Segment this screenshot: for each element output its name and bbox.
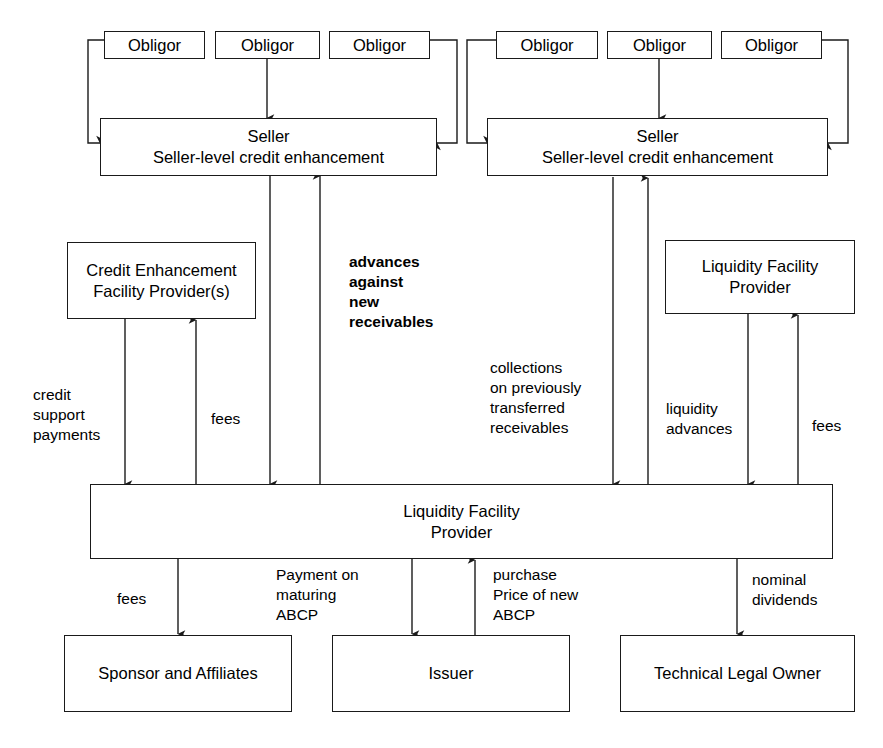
node-label: Obligor bbox=[241, 35, 294, 56]
edge-label-fees-sponsor: fees bbox=[117, 589, 146, 609]
edge-label-line2: against bbox=[349, 272, 433, 292]
node-label: Obligor bbox=[745, 35, 798, 56]
edge-label-line2: maturing bbox=[276, 585, 359, 605]
edge-label-line2: dividends bbox=[752, 590, 818, 610]
node-technical-legal-owner[interactable]: Technical Legal Owner bbox=[620, 635, 855, 712]
node-conduit-liquidity-facility-provider[interactable]: Liquidity Facility Provider bbox=[90, 484, 833, 559]
edge-label-payment-on-maturing-abcp: Payment on maturing ABCP bbox=[276, 565, 359, 625]
edge-label-advances-against-new-receivables: advances against new receivables bbox=[349, 252, 433, 333]
node-label: Technical Legal Owner bbox=[654, 663, 821, 684]
edge-label-line3: ABCP bbox=[276, 605, 359, 625]
edge-label-line4: receivables bbox=[490, 418, 581, 438]
node-label-line2: Provider bbox=[729, 277, 790, 298]
node-label-line2: Seller-level credit enhancement bbox=[153, 147, 384, 168]
node-credit-enhancement-facility-provider[interactable]: Credit Enhancement Facility Provider(s) bbox=[67, 242, 256, 319]
edge-label-line4: receivables bbox=[349, 312, 433, 332]
edge-label-line1: purchase bbox=[493, 565, 578, 585]
edge-label-fees-liquidity: fees bbox=[812, 416, 841, 436]
node-label-line1: Seller bbox=[636, 126, 678, 147]
node-obligor-left-2[interactable]: Obligor bbox=[215, 31, 320, 59]
edge-label-credit-support-payments: credit support payments bbox=[33, 385, 100, 445]
edge-label-line2: Price of new bbox=[493, 585, 578, 605]
node-label: Obligor bbox=[633, 35, 686, 56]
edge-label-line1: fees bbox=[812, 416, 841, 436]
node-label-line1: Credit Enhancement bbox=[86, 260, 236, 281]
edge-label-line2: support bbox=[33, 405, 100, 425]
node-label: Obligor bbox=[353, 35, 406, 56]
node-obligor-left-1[interactable]: Obligor bbox=[104, 31, 205, 59]
node-liquidity-facility-provider-right[interactable]: Liquidity Facility Provider bbox=[665, 240, 855, 314]
node-label-line2: Seller-level credit enhancement bbox=[542, 147, 773, 168]
diagram-canvas: Obligor Obligor Obligor Obligor Obligor … bbox=[0, 0, 883, 748]
node-obligor-right-3[interactable]: Obligor bbox=[721, 31, 822, 59]
node-label-line1: Seller bbox=[247, 126, 289, 147]
node-seller-left[interactable]: Seller Seller-level credit enhancement bbox=[100, 118, 437, 176]
edge-label-line1: credit bbox=[33, 385, 100, 405]
edge-label-fees-credit-enhancement: fees bbox=[211, 409, 240, 429]
node-obligor-right-2[interactable]: Obligor bbox=[607, 31, 712, 59]
node-label: Obligor bbox=[520, 35, 573, 56]
node-seller-right[interactable]: Seller Seller-level credit enhancement bbox=[487, 118, 828, 176]
edge-label-collections-on-previously-transferred-receivables: collections on previously transferred re… bbox=[490, 358, 581, 439]
edge-label-line2: advances bbox=[666, 419, 732, 439]
edge-label-line3: payments bbox=[33, 425, 100, 445]
edge-label-line1: fees bbox=[211, 409, 240, 429]
edge-label-line3: transferred bbox=[490, 398, 581, 418]
edge-label-line3: new bbox=[349, 292, 433, 312]
edge-label-line2: on previously bbox=[490, 378, 581, 398]
node-label: Sponsor and Affiliates bbox=[98, 663, 257, 684]
edge-label-liquidity-advances: liquidity advances bbox=[666, 399, 732, 439]
node-label-line1: Liquidity Facility bbox=[403, 501, 519, 522]
edge-label-line1: liquidity bbox=[666, 399, 732, 419]
node-label: Issuer bbox=[429, 663, 474, 684]
edge-label-line1: advances bbox=[349, 252, 433, 272]
node-label-line2: Facility Provider(s) bbox=[93, 281, 230, 302]
node-obligor-right-1[interactable]: Obligor bbox=[496, 31, 598, 59]
edge-label-nominal-dividends: nominal dividends bbox=[752, 570, 818, 610]
edge-label-line1: nominal bbox=[752, 570, 818, 590]
node-label-line2: Provider bbox=[431, 522, 492, 543]
node-label: Obligor bbox=[128, 35, 181, 56]
node-obligor-left-3[interactable]: Obligor bbox=[329, 31, 430, 59]
node-label-line1: Liquidity Facility bbox=[702, 256, 818, 277]
edge-label-line3: ABCP bbox=[493, 605, 578, 625]
edge-label-purchase-price-of-new-abcp: purchase Price of new ABCP bbox=[493, 565, 578, 625]
node-issuer[interactable]: Issuer bbox=[332, 635, 570, 712]
node-sponsor-and-affiliates[interactable]: Sponsor and Affiliates bbox=[64, 635, 292, 712]
edge-label-line1: collections bbox=[490, 358, 581, 378]
edge-label-line1: Payment on bbox=[276, 565, 359, 585]
edge-label-line1: fees bbox=[117, 589, 146, 609]
